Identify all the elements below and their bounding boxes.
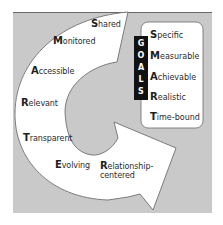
cycle-label-relevant: Relevant <box>21 98 58 108</box>
cycle-label-shared: Shared <box>91 19 121 29</box>
goal-item-specific: Specific <box>150 30 183 40</box>
goals-letter-a: A <box>134 64 148 72</box>
cycle-label-transparent: Transparent <box>23 133 72 143</box>
goal-item-achievable: Achievable <box>150 72 196 82</box>
cycle-label-relationship-centered: Relationship- centered <box>100 161 153 180</box>
cycle-label-monitored: Monitored <box>53 36 95 46</box>
goals-vertical-bar: G O A L S <box>134 36 148 100</box>
goal-item-realistic: Realistic <box>150 92 186 102</box>
cycle-label-accessible: Accessible <box>31 66 74 76</box>
goals-letter-s: S <box>134 88 148 96</box>
goal-item-time-bound: Time-bound <box>150 112 200 122</box>
goals-letter-l: L <box>134 76 148 84</box>
smart-goals-diagram: G O A L S Specific Measurable Achievable… <box>0 0 223 225</box>
goals-letter-g: G <box>134 40 148 48</box>
goal-item-measurable: Measurable <box>150 51 199 61</box>
cycle-label-evolving: Evolving <box>55 160 90 170</box>
goals-letter-o: O <box>134 52 148 60</box>
